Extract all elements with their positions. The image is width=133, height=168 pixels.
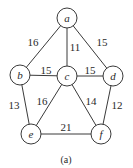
node-label: a [64,12,70,24]
node-label: e [29,128,34,140]
node-f: f [91,124,111,144]
node-d: d [103,66,123,86]
weighted-graph-diagram: 16111515151316141221 abcdef (a) [0,0,133,168]
edge-weight-a-d: 15 [97,36,109,48]
node-b: b [10,65,30,85]
edge-weight-a-b: 16 [28,36,40,48]
node-label: b [17,69,23,81]
edge-weight-d-f: 12 [112,99,123,111]
node-a: a [57,8,77,28]
edge-weight-a-c: 11 [70,41,81,53]
edge-weight-b-e: 13 [9,99,21,111]
edge-weight-e-f: 21 [61,121,72,133]
edge-weight-c-d: 15 [85,64,97,76]
node-label: c [65,70,70,82]
edge-weight-c-f: 14 [86,95,98,107]
node-e: e [21,124,41,144]
node-label: d [110,70,116,82]
edge-weight-c-e: 16 [37,95,49,107]
edge-weight-b-c: 15 [41,64,53,76]
node-c: c [57,66,77,86]
figure-caption: (a) [60,154,71,166]
